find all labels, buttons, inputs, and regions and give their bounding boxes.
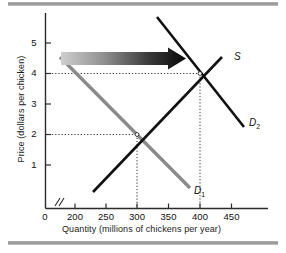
x-tick-label-250: 250: [93, 211, 119, 222]
axes-group: [46, 13, 269, 209]
y-tick-label-4: 4: [27, 67, 41, 78]
demand1-label-sub: 1: [201, 191, 205, 198]
x-tick-label-350: 350: [156, 211, 182, 222]
y-tick-label-1: 1: [27, 159, 41, 170]
equilibrium-guides: [46, 74, 201, 209]
y-tick-label-5: 5: [27, 37, 41, 48]
y-tick-label-3: 3: [27, 98, 41, 109]
axis-break-mark: [55, 198, 64, 206]
supply-curve-label: S: [234, 51, 241, 62]
x-tick-label-300: 300: [124, 211, 150, 222]
demand-curve-d2-label: D2: [249, 117, 260, 130]
x-axis-title: Quantity (millions of chickens per year): [62, 224, 221, 234]
demand-shift-arrow: [61, 48, 186, 70]
supply-demand-chart: 5 4 3 2 1 0 200 250 300 350 400 450 S D2…: [0, 0, 286, 253]
x-tick-label-400: 400: [187, 211, 213, 222]
y-axis-ticks: [46, 43, 52, 165]
demand2-label-sub: 2: [256, 123, 260, 130]
supply-label-text: S: [234, 51, 241, 62]
equilibrium-point-original: [135, 133, 139, 137]
demand-curve-d1: [60, 57, 190, 188]
x-tick-label-200: 200: [62, 211, 88, 222]
x-axis-ticks: [75, 204, 232, 209]
x-tick-label-450: 450: [219, 211, 245, 222]
equilibrium-point-new: [198, 72, 202, 76]
supply-curve-s: [93, 57, 222, 192]
demand-curve-d1-label: D1: [194, 185, 205, 198]
y-tick-label-2: 2: [27, 128, 41, 139]
y-axis-title: Price (dollars per chicken): [16, 44, 26, 174]
x-tick-label-0: 0: [38, 211, 52, 222]
